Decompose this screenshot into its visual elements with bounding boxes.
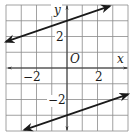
x-tick-2: 2: [95, 70, 103, 84]
y-tick-neg2: −2: [48, 93, 66, 107]
y-axis-label: y: [53, 3, 61, 17]
x-axis-label: x: [117, 52, 124, 66]
y-tick-2: 2: [56, 30, 64, 44]
origin-label: O: [70, 52, 80, 66]
coordinate-graph: y x O −2 2 2 −2: [0, 0, 132, 135]
x-tick-neg2: −2: [23, 70, 41, 84]
